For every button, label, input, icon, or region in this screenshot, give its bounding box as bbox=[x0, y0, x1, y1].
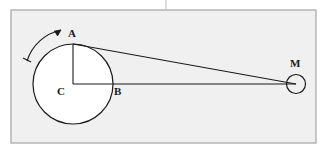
diagram-canvas: A B C M bbox=[0, 0, 325, 152]
mechanism-diagram bbox=[0, 0, 325, 152]
point-label-A: A bbox=[68, 28, 76, 39]
point-label-C: C bbox=[57, 86, 65, 97]
point-label-B: B bbox=[114, 86, 121, 97]
mass-M bbox=[287, 75, 306, 94]
point-label-M: M bbox=[290, 58, 300, 69]
